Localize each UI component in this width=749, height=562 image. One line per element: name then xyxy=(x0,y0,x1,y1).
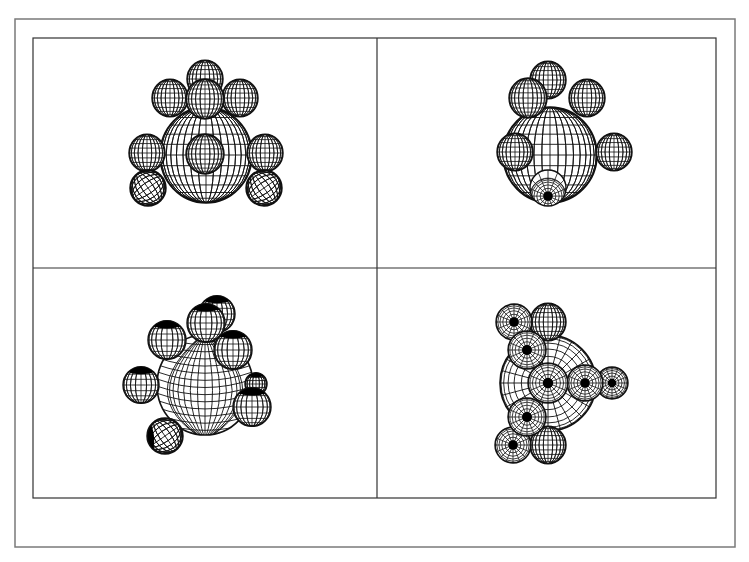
satellite-sphere xyxy=(129,134,165,172)
satellite-sphere xyxy=(186,134,224,174)
satellite-sphere xyxy=(186,79,224,119)
panel-top-right xyxy=(497,61,632,232)
satellite-sphere xyxy=(152,79,188,117)
outer-frame xyxy=(15,19,735,547)
panels xyxy=(123,60,644,481)
satellite-sphere xyxy=(596,133,632,171)
figure-canvas xyxy=(0,0,749,562)
panel-bottom-left xyxy=(123,292,271,461)
satellite-sphere xyxy=(569,79,605,117)
sphere-cluster-figure xyxy=(0,0,749,562)
satellite-sphere xyxy=(222,79,258,117)
satellite-sphere xyxy=(247,134,283,172)
satellite-sphere xyxy=(148,316,186,359)
panel-bottom-right xyxy=(477,286,644,481)
satellite-sphere xyxy=(497,133,533,171)
satellite-sphere xyxy=(509,78,547,118)
panel-top-left xyxy=(123,60,289,213)
satellite-sphere xyxy=(123,363,159,404)
